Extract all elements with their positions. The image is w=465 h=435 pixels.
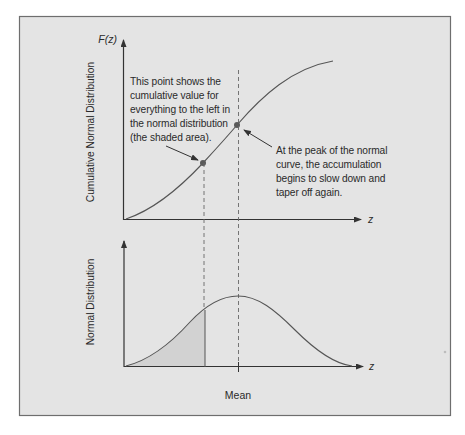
top-y-axis-symbol: F(z): [98, 33, 117, 45]
bottom-x-axis-symbol: z: [368, 360, 375, 372]
normal-distribution-figure: F(z) z Cumulative Normal Distribution Th…: [0, 0, 465, 435]
cumulative-point-left: [200, 160, 206, 166]
top-y-axis-label: Cumulative Normal Distribution: [85, 62, 96, 202]
bottom-y-axis-label: Normal Distribution: [85, 259, 96, 346]
mean-label: Mean: [225, 389, 251, 401]
cumulative-point-mean: [234, 122, 240, 128]
scan-speck: [444, 351, 447, 354]
top-x-axis-symbol: z: [367, 213, 374, 225]
